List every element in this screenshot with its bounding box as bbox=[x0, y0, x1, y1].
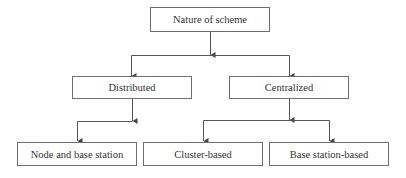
node-nature-of-scheme: Nature of scheme bbox=[150, 7, 270, 32]
node-label: Distributed bbox=[108, 82, 155, 93]
node-label: Nature of scheme bbox=[173, 14, 247, 25]
scheme-classification-diagram: Nature of scheme Distributed Centralized… bbox=[0, 0, 406, 178]
node-distributed: Distributed bbox=[72, 76, 192, 99]
node-label: Base station-based bbox=[290, 149, 368, 160]
node-label: Centralized bbox=[265, 82, 313, 93]
node-label: Node and base station bbox=[31, 149, 123, 160]
node-node-and-base-station: Node and base station bbox=[17, 142, 137, 166]
node-centralized: Centralized bbox=[229, 76, 349, 99]
node-cluster-based: Cluster-based bbox=[143, 142, 263, 166]
node-label: Cluster-based bbox=[174, 149, 232, 160]
node-base-station-based: Base station-based bbox=[269, 142, 389, 166]
